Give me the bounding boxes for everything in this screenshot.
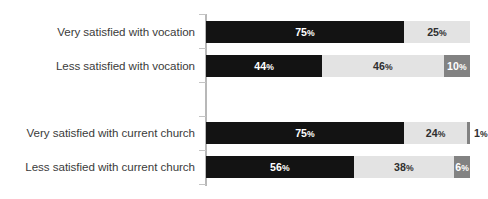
percent-sign: % [282,163,290,173]
bar-segment-value-label: 46% [373,61,393,72]
bar-row-label: Less satisfied with current church [25,156,195,178]
bar-segment-value-label: 75% [295,27,315,38]
bar-row-label: Very satisfied with current church [27,122,195,144]
bar-row: Less satisfied with vocation44%46%10% [0,55,482,77]
bar-track: 44%46%10% [206,55,470,77]
bar-segment: 25% [404,21,470,43]
bar-segment: 24% [404,122,467,144]
percent-sign: % [480,129,488,139]
axis-tick [199,116,206,117]
bar-row: Very satisfied with vocation75%25% [0,21,482,43]
percent-sign: % [461,163,469,173]
percent-sign: % [307,28,315,38]
axis-tick [199,14,206,15]
bar-segment: 46% [322,55,443,77]
percent-sign: % [385,62,393,72]
bar-segment-value-label: 44% [254,61,274,72]
bar-segment: 10% [444,55,470,77]
percent-sign: % [266,62,274,72]
bar-segment-value-label: 75% [295,128,315,139]
percent-sign: % [406,163,414,173]
bar-segment-value-label: 6% [455,162,469,173]
bar-track: 56%38%6% [206,156,470,178]
axis-tick [199,184,206,185]
bar-row-label: Very satisfied with vocation [57,21,195,43]
bar-track: 75%25% [206,21,470,43]
bar-segment-value-label: 10% [447,61,467,72]
percent-sign: % [307,129,315,139]
percent-sign: % [438,129,446,139]
bar-segment-value-label: 24% [426,128,446,139]
percent-sign: % [459,62,467,72]
bar-segment-value-label: 25% [427,27,447,38]
bar-segment: 44% [206,55,322,77]
bar-segment: 6% [454,156,470,178]
bar-track: 75%24%1% [206,122,470,144]
bar-segment: 75% [206,21,404,43]
axis-tick [199,150,206,151]
axis-tick [199,48,206,49]
bar-segment: 56% [206,156,354,178]
bar-segment-value-label: 56% [270,162,290,173]
bar-segment-value-label: 38% [394,162,414,173]
axis-tick [199,82,206,83]
bar-segment: 38% [354,156,454,178]
bar-row: Very satisfied with current church75%24%… [0,122,482,144]
bar-segment-value-label: 1% [474,128,488,139]
bar-row: Less satisfied with current church56%38%… [0,156,482,178]
percent-sign: % [439,28,447,38]
bar-segment: 75% [206,122,404,144]
bar-segment: 1% [467,122,470,144]
bar-row-label: Less satisfied with vocation [56,55,195,77]
